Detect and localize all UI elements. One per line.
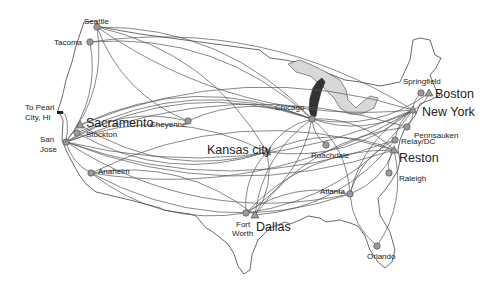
route-fortworth-newyork	[246, 110, 413, 213]
city-label: Orlando	[367, 253, 395, 261]
route-seattle-kansascity	[97, 27, 267, 152]
raleigh-node-circle-icon	[386, 170, 392, 176]
city-label: Atlanta	[320, 188, 345, 196]
city-label: Worth	[232, 230, 253, 238]
boston-hub-triangle-icon	[425, 89, 433, 96]
tacoma-node-circle-icon	[87, 39, 93, 45]
stockton-node-circle-icon	[74, 130, 80, 136]
lake-michigan	[309, 78, 325, 118]
city-label: Kansas city	[207, 144, 271, 157]
pearl-city-route	[63, 112, 67, 142]
route-chicago-roachdale	[312, 119, 326, 145]
city-label: New York	[422, 106, 475, 119]
roachdale-node-circle-icon	[323, 142, 329, 148]
city-label: Jose	[40, 146, 57, 154]
city-label: Stockton	[86, 131, 117, 139]
springfield-node-circle-icon	[418, 90, 424, 96]
fortworth-node-circle-icon	[243, 210, 249, 216]
city-label: Seattle	[84, 18, 109, 26]
city-label: City, HI	[25, 114, 51, 122]
city-label: Roachdale	[311, 152, 349, 160]
city-label: Sacramento	[86, 117, 153, 130]
city-label: Dallas	[256, 221, 291, 234]
city-label: Pennsauken	[414, 132, 458, 140]
city-label: Raleigh	[399, 175, 426, 183]
city-label: Tacoma	[54, 39, 82, 47]
city-label: Reston	[399, 152, 439, 165]
route-orlando-reston	[377, 150, 398, 246]
pearl-city-marker	[57, 111, 63, 114]
route-tacoma-newyork	[90, 37, 413, 110]
city-label: Anaheim	[98, 168, 130, 176]
relaydc-node-circle-icon	[392, 137, 398, 143]
city-label: Springfield	[403, 78, 441, 86]
city-label: Cheyenne	[150, 121, 186, 129]
chicago-node-circle-icon	[309, 116, 315, 122]
city-label: To Pearl	[25, 104, 54, 112]
orlando-node-circle-icon	[374, 243, 380, 249]
anaheim-node-circle-icon	[88, 170, 94, 176]
city-label: San	[40, 136, 54, 144]
route-anaheim-atlanta	[91, 173, 350, 213]
pennsauken-node-circle-icon	[404, 124, 410, 130]
city-label: Boston	[435, 88, 474, 101]
atlanta-node-circle-icon	[347, 191, 353, 197]
route-dallas-pennsauken	[255, 127, 407, 215]
city-label: Chicago	[275, 104, 304, 112]
route-atlanta-orlando	[350, 194, 377, 246]
